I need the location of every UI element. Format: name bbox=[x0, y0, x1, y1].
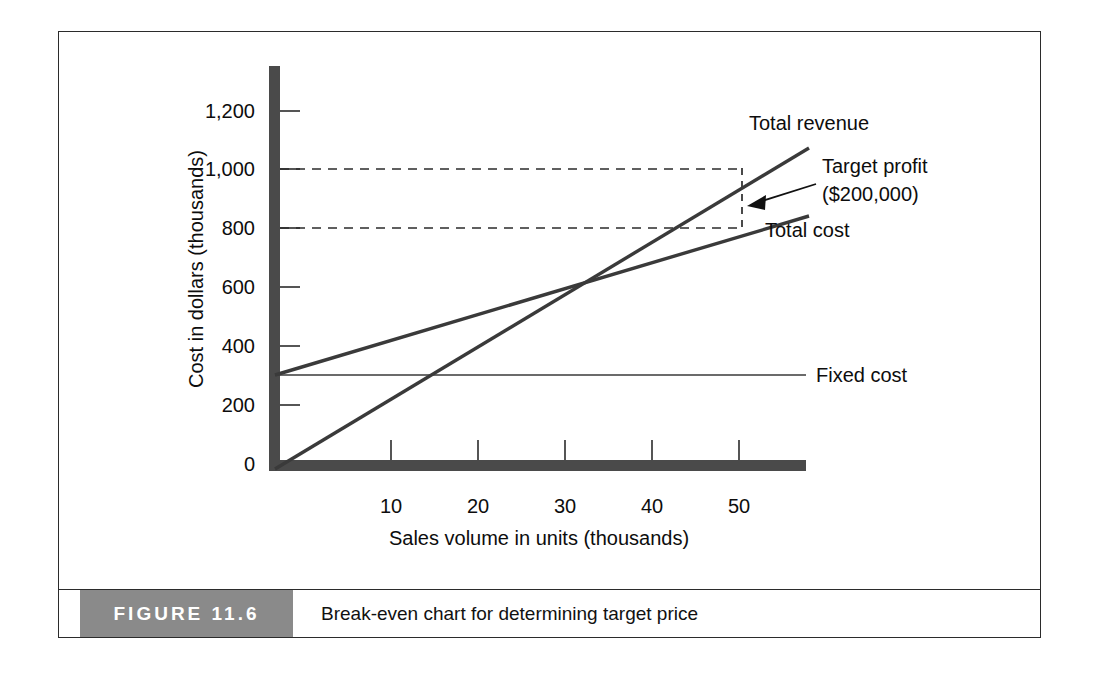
annotation-target-profit-line2: ($200,000) bbox=[822, 183, 919, 205]
caption-left-spacer bbox=[59, 590, 80, 637]
y-axis-bar bbox=[269, 66, 280, 471]
series-line-total-revenue bbox=[275, 148, 809, 469]
series-label-fixed-cost: Fixed cost bbox=[816, 364, 908, 386]
series-label-total-cost: Total cost bbox=[765, 219, 850, 241]
y-tick-label-1200: 1,200 bbox=[205, 100, 255, 122]
figure-number-badge: FIGURE 11.6 bbox=[80, 590, 293, 637]
figure-caption-strip: FIGURE 11.6 Break-even chart for determi… bbox=[58, 590, 1041, 638]
x-tick-label-30: 30 bbox=[554, 495, 576, 517]
series-label-total-revenue: Total revenue bbox=[749, 112, 869, 134]
y-axis-ticks bbox=[280, 111, 300, 405]
break-even-chart: 1,200 1,000 800 600 400 200 0 Cost in do… bbox=[59, 32, 1042, 591]
x-axis-ticks bbox=[391, 440, 739, 460]
y-tick-label-1000: 1,000 bbox=[205, 158, 255, 180]
x-axis-tick-labels: 10 20 30 40 50 bbox=[380, 495, 750, 517]
y-tick-label-200: 200 bbox=[222, 394, 255, 416]
x-tick-label-10: 10 bbox=[380, 495, 402, 517]
annotation-arrow-line bbox=[759, 184, 816, 202]
figure-frame: 1,200 1,000 800 600 400 200 0 Cost in do… bbox=[58, 31, 1041, 590]
y-tick-label-600: 600 bbox=[222, 276, 255, 298]
x-tick-label-50: 50 bbox=[728, 495, 750, 517]
y-tick-label-400: 400 bbox=[222, 335, 255, 357]
x-axis-bar bbox=[269, 460, 806, 471]
y-tick-label-800: 800 bbox=[222, 217, 255, 239]
series-line-total-cost bbox=[275, 216, 809, 375]
annotation-target-profit-line1: Target profit bbox=[822, 155, 928, 177]
x-axis-title: Sales volume in units (thousands) bbox=[389, 527, 689, 549]
annotation-arrow-head bbox=[747, 195, 766, 210]
y-axis-tick-labels: 1,200 1,000 800 600 400 200 0 bbox=[205, 100, 255, 475]
y-axis-title: Cost in dollars (thousands) bbox=[185, 150, 207, 388]
y-tick-label-0: 0 bbox=[244, 453, 255, 475]
x-tick-label-40: 40 bbox=[641, 495, 663, 517]
figure-page: 1,200 1,000 800 600 400 200 0 Cost in do… bbox=[0, 0, 1103, 682]
figure-caption-text: Break-even chart for determining target … bbox=[293, 590, 1040, 637]
x-tick-label-20: 20 bbox=[467, 495, 489, 517]
